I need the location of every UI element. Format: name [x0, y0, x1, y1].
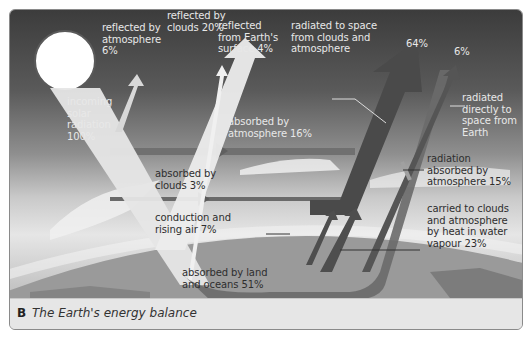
label-radiated-clouds-atmosphere: radiated to space from clouds and atmosp… [291, 20, 377, 55]
label-absorbed-atmosphere: absorbed by atmosphere 16% [228, 116, 312, 139]
label-radiated-direct: radiated directly to space from Earth [462, 92, 517, 138]
label-incoming-radiation: incoming solar radiation 100% [67, 96, 112, 142]
absorbed-atmosphere-arrow [110, 148, 355, 155]
cloud-shape [240, 159, 340, 175]
label-conduction: conduction and rising air 7% [155, 212, 231, 235]
label-64-percent: 64% [406, 38, 428, 50]
label-absorbed-clouds: absorbed by clouds 3% [155, 168, 216, 191]
label-radiation-absorbed: radiation absorbed by atmosphere 15% [427, 153, 511, 188]
label-reflected-atmosphere: reflected by atmosphere 6% [102, 22, 161, 57]
label-absorbed-land: absorbed by land and oceans 51% [182, 267, 267, 290]
label-6-percent: 6% [454, 46, 470, 58]
caption-letter: B [17, 306, 26, 320]
caption-text: The Earth's energy balance [32, 306, 197, 320]
figure-frame: reflected by atmosphere 6% incoming sola… [9, 9, 523, 330]
label-reflected-surface: reflected from Earth's surface 4% [218, 20, 278, 55]
figure-caption: B The Earth's energy balance [10, 298, 522, 330]
sun-icon [35, 31, 95, 91]
label-reflected-clouds: reflected by clouds 20% [167, 10, 226, 33]
label-water-vapour: carried to clouds and atmosphere by heat… [427, 203, 509, 249]
energy-balance-diagram: reflected by atmosphere 6% incoming sola… [10, 10, 522, 298]
reflected-atmosphere-arrow [115, 74, 144, 132]
